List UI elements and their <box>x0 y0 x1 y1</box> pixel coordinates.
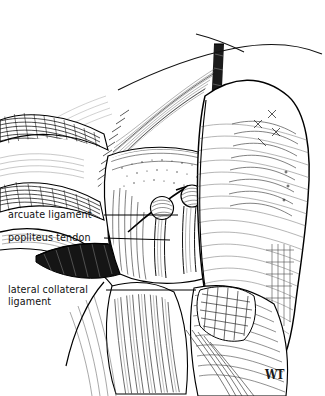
label-popliteus-tendon: popliteus tendon <box>8 232 91 244</box>
anatomical-illustration-figure: arcuate ligament popliteus tendon latera… <box>0 0 325 396</box>
label-lcl-line-2: ligament <box>8 296 51 307</box>
label-lcl-line-1: lateral collateral <box>8 284 88 295</box>
fabella-bulb <box>151 197 174 220</box>
label-arcuate-ligament: arcuate ligament <box>8 209 92 221</box>
illustration-canvas <box>0 0 325 396</box>
label-lateral-collateral-ligament: lateral collateralligament <box>8 284 88 307</box>
artist-signature: WT <box>265 368 283 383</box>
